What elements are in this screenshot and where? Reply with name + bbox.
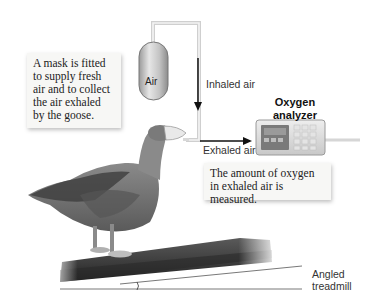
measurement-callout-text: The amount of oxygen in exhaled air is m… — [210, 167, 314, 205]
treadmill — [50, 235, 280, 290]
oxygen-analyzer-device — [256, 120, 325, 155]
oxygen-analyzer-label-line1: Oxygen — [266, 96, 324, 109]
air-canister-label: Air — [145, 76, 157, 87]
angled-treadmill-label-line2: treadmill — [312, 280, 352, 292]
exhaled-air-label: Exhaled air — [203, 144, 256, 156]
air-canister — [139, 42, 168, 100]
mask-callout: A mask is fitted to supply fresh air and… — [27, 53, 121, 128]
diagram-graphics — [0, 0, 366, 300]
angled-treadmill-label-line1: Angled — [312, 268, 352, 280]
mask-callout-text: A mask is fitted to supply fresh air and… — [33, 57, 110, 121]
oxygen-analyzer-label-line2: analyzer — [266, 109, 324, 122]
inhaled-air-label: Inhaled air — [206, 78, 255, 90]
measurement-callout: The amount of oxygen in exhaled air is m… — [204, 163, 331, 200]
angled-treadmill-label: Angled treadmill — [312, 268, 352, 292]
oxygen-analyzer-label: Oxygen analyzer — [266, 96, 324, 122]
